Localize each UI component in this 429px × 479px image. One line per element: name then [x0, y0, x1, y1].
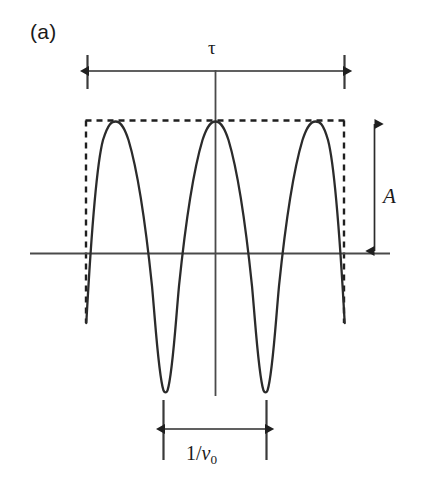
period-symbol-label: 1/ν0 [186, 443, 217, 466]
waveform-diagram-svg [0, 0, 429, 479]
duration-symbol-label: τ [208, 38, 216, 57]
period-subscript: 0 [210, 452, 217, 467]
amplitude-symbol-label: A [383, 186, 396, 207]
panel-label: (a) [30, 21, 57, 42]
waveform-figure: (a) τ A 1/ν0 [0, 0, 429, 479]
period-numerator: 1/ [186, 442, 202, 464]
